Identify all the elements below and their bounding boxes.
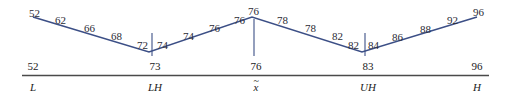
axis-label-h: H (473, 82, 481, 93)
axis-value-median: 76 (251, 61, 262, 72)
data-label: 88 (420, 24, 431, 35)
axis-value-lh: 73 (150, 61, 161, 72)
data-label: 76 (234, 15, 245, 26)
axis-label-lh: LH (148, 82, 162, 93)
data-label: 86 (392, 32, 403, 43)
data-label: 68 (111, 31, 122, 42)
axis-value-uh: 83 (363, 61, 374, 72)
tilde-accent: ~ (254, 76, 259, 86)
data-label: 72 (137, 40, 148, 51)
data-label: 74 (157, 40, 168, 51)
median-symbol: ~ x (254, 82, 259, 93)
data-label: 74 (183, 31, 194, 42)
data-label: 84 (368, 40, 379, 51)
axis-label-l: L (30, 82, 36, 93)
data-label: 92 (447, 15, 458, 26)
data-label: 52 (29, 8, 40, 19)
data-label: 78 (305, 23, 316, 34)
data-label: 78 (277, 15, 288, 26)
axis-value-l: 52 (28, 61, 39, 72)
diagram-canvas: 52 62 66 68 72 74 74 76 76 76 78 78 82 8… (0, 0, 510, 98)
data-label: 66 (84, 23, 95, 34)
data-label: 96 (473, 7, 484, 18)
axis-label-uh: UH (360, 82, 376, 93)
data-label: 76 (209, 23, 220, 34)
axis-label-median: ~ x (254, 82, 259, 93)
data-polyline (33, 17, 477, 52)
data-label: 82 (348, 40, 359, 51)
data-label: 76 (248, 6, 259, 17)
data-label: 62 (55, 15, 66, 26)
axis-value-h: 96 (472, 61, 483, 72)
data-label: 82 (332, 31, 343, 42)
